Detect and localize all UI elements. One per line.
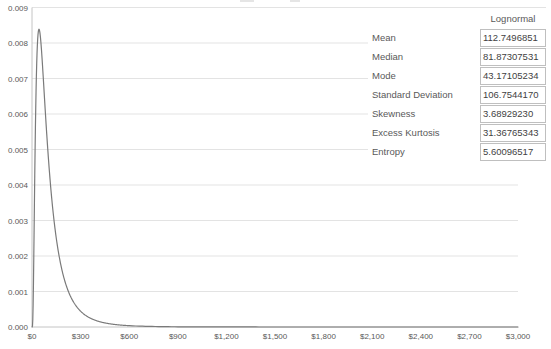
x-tick-label: $2,700 <box>445 332 493 341</box>
stats-row-standard-deviation: Standard Deviation 106.7544170 <box>368 85 549 104</box>
stat-value-cell[interactable]: 43.17105234 <box>480 67 546 85</box>
x-tick-label: $1,500 <box>251 332 299 341</box>
stat-label: Standard Deviation <box>368 89 480 100</box>
y-tick-label: 0.005 <box>0 146 28 155</box>
x-tick-label: $1,800 <box>300 332 348 341</box>
stats-row-excess-kurtosis: Excess Kurtosis 31.36765343 <box>368 123 549 142</box>
y-tick-label: 0.009 <box>0 4 28 13</box>
x-tick-label: $900 <box>154 332 202 341</box>
stats-row-median: Median 81.87307531 <box>368 47 549 66</box>
y-tick-label: 0.006 <box>0 110 28 119</box>
stat-value-cell[interactable]: 81.87307531 <box>480 48 546 66</box>
stats-header-row: Lognormal <box>368 9 549 28</box>
y-tick-label: 0.003 <box>0 217 28 226</box>
stat-label: Entropy <box>368 146 480 157</box>
stat-label: Mean <box>368 32 480 43</box>
stat-label: Skewness <box>368 108 480 119</box>
stat-value-cell[interactable]: 106.7544170 <box>480 86 546 104</box>
stats-row-entropy: Entropy 5.60096517 <box>368 142 549 161</box>
stats-row-mean: Mean 112.7496851 <box>368 28 549 47</box>
x-tick-label: $1,200 <box>202 332 250 341</box>
stats-header: Lognormal <box>480 13 546 24</box>
y-tick-label: 0.002 <box>0 252 28 261</box>
stat-label: Median <box>368 51 480 62</box>
x-tick-label: $2,400 <box>397 332 445 341</box>
y-tick-label: 0.008 <box>0 39 28 48</box>
x-tick-label: $600 <box>105 332 153 341</box>
y-tick-label: 0.001 <box>0 288 28 297</box>
stat-value-cell[interactable]: 3.68929230 <box>480 105 546 123</box>
stat-value-cell[interactable]: 112.7496851 <box>480 29 546 47</box>
stat-value-cell[interactable]: 31.36765343 <box>480 124 546 142</box>
stat-label: Excess Kurtosis <box>368 127 480 138</box>
stats-row-skewness: Skewness 3.68929230 <box>368 104 549 123</box>
stat-label: Mode <box>368 70 480 81</box>
stats-row-mode: Mode 43.17105234 <box>368 66 549 85</box>
y-tick-label: 0.007 <box>0 75 28 84</box>
x-tick-label: $2,100 <box>348 332 396 341</box>
stat-value-cell[interactable]: 5.60096517 <box>480 143 546 161</box>
y-tick-label: 0.000 <box>0 323 28 332</box>
chart-canvas: 0.0000.0010.0020.0030.0040.0050.0060.007… <box>0 0 551 349</box>
x-tick-label: $300 <box>57 332 105 341</box>
x-tick-label: $0 <box>8 332 56 341</box>
y-tick-label: 0.004 <box>0 181 28 190</box>
x-tick-label: $3,000 <box>494 332 542 341</box>
stats-panel: Lognormal Mean 112.7496851 Median 81.873… <box>368 9 549 161</box>
